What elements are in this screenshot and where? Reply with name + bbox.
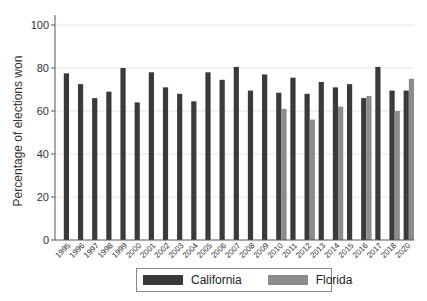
bar-california-2015 xyxy=(347,84,352,240)
legend: California Florida xyxy=(136,268,332,292)
bar-california-2014 xyxy=(333,87,338,240)
y-tick-label: 60 xyxy=(37,105,49,117)
legend-item-california: California xyxy=(137,273,242,287)
x-tick-label: 2020 xyxy=(393,241,412,260)
bar-california-1996 xyxy=(78,84,83,240)
bar-california-2012 xyxy=(305,94,310,240)
bar-california-2004 xyxy=(191,101,196,240)
bar-florida-2010 xyxy=(281,109,286,240)
bar-california-2006 xyxy=(220,80,225,240)
y-tick-label: 100 xyxy=(31,19,49,31)
legend-label-california: California xyxy=(191,273,242,287)
bar-california-2018 xyxy=(389,91,394,240)
bars xyxy=(64,67,414,240)
y-tick-labels: 020406080100 xyxy=(31,19,55,246)
bar-california-2003 xyxy=(177,94,182,240)
bar-florida-2014 xyxy=(338,107,343,240)
y-tick-label: 80 xyxy=(37,62,49,74)
y-tick-label: 0 xyxy=(43,234,49,246)
bar-florida-2012 xyxy=(310,120,315,240)
bar-california-2009 xyxy=(262,74,267,240)
legend-item-florida: Florida xyxy=(262,273,353,287)
x-tick-labels: 1995199619971998199920002001200220032004… xyxy=(53,241,412,260)
legend-swatch-florida xyxy=(268,275,308,285)
legend-swatch-california xyxy=(143,275,183,285)
bar-california-2005 xyxy=(205,72,210,240)
bar-california-1999 xyxy=(120,68,125,240)
bar-california-2010 xyxy=(276,93,281,240)
bar-california-1995 xyxy=(64,73,69,240)
bar-california-2017 xyxy=(375,67,380,240)
bar-california-2013 xyxy=(319,82,324,240)
bar-florida-2020 xyxy=(409,79,414,240)
bar-chart: 1995199619971998199920002001200220032004… xyxy=(0,0,427,301)
bar-california-2016 xyxy=(361,98,366,240)
bar-california-2020 xyxy=(404,91,409,240)
legend-label-florida: Florida xyxy=(316,273,353,287)
bar-florida-2016 xyxy=(366,96,371,240)
bar-california-2007 xyxy=(234,67,239,240)
bar-california-2001 xyxy=(149,72,154,240)
y-tick-label: 20 xyxy=(37,191,49,203)
bar-california-2000 xyxy=(135,102,140,240)
bar-california-2002 xyxy=(163,87,168,240)
bar-california-1998 xyxy=(106,92,111,240)
bar-california-1997 xyxy=(92,98,97,240)
bar-california-2011 xyxy=(290,78,295,240)
bar-california-2008 xyxy=(248,91,253,240)
y-axis-label: Percentage of elections won xyxy=(11,51,25,211)
y-tick-label: 40 xyxy=(37,148,49,160)
bar-florida-2018 xyxy=(395,111,400,240)
